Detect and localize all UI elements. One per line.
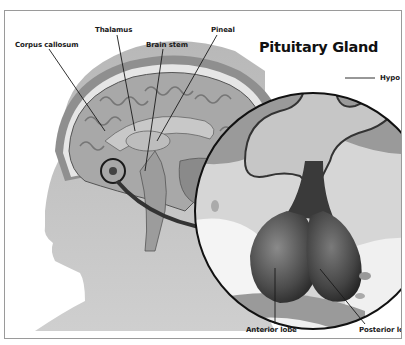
diagram-frame: Corpus callosum Thalamus Brain stem Pine… xyxy=(4,10,402,339)
label-brain-stem: Brain stem xyxy=(146,41,188,49)
label-hypothalamus: Hypo xyxy=(380,74,400,82)
label-anterior-lobe: Anterior lobe xyxy=(246,326,297,334)
label-corpus-callosum: Corpus callosum xyxy=(15,41,78,49)
label-posterior-lobe: Posterior lo xyxy=(359,326,402,334)
label-thalamus: Thalamus xyxy=(95,26,132,34)
label-pineal: Pineal xyxy=(211,26,235,34)
anatomy-illustration xyxy=(5,11,401,338)
diagram-title: Pituitary Gland xyxy=(259,39,378,55)
